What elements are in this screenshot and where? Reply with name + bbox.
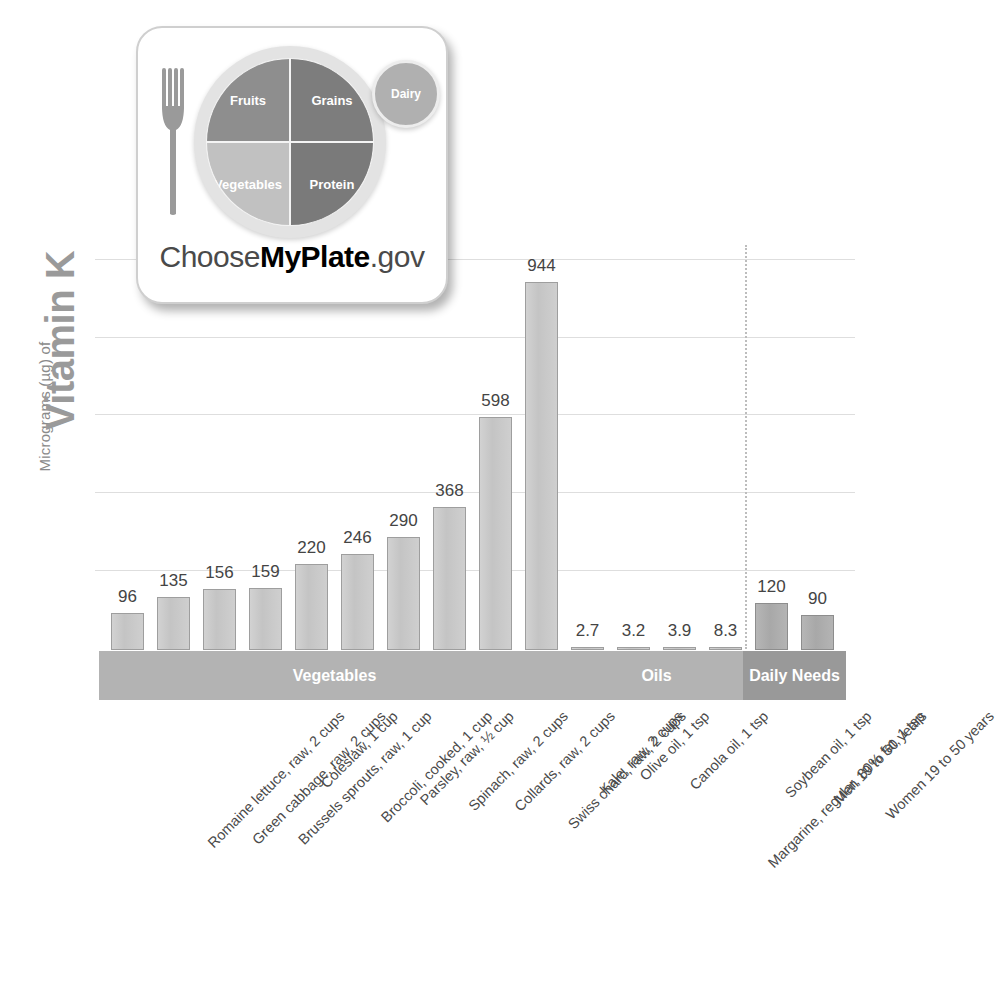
plate-segment-grains-label: Grains [311, 93, 352, 108]
bar[interactable] [203, 589, 236, 650]
plate-segment-dairy: Dairy [372, 60, 440, 128]
bar-value-label: 944 [512, 256, 572, 276]
wordmark-gov: .gov [370, 240, 425, 273]
bar[interactable] [571, 647, 604, 650]
wordmark-choose: Choose [159, 240, 259, 273]
plate-segment-vegetables-label: Vegetables [214, 177, 282, 192]
category-band-vegetables: Vegetables [99, 651, 570, 700]
bar-value-label: 598 [466, 391, 526, 411]
plate-inner: Fruits Grains Vegetables Protein [206, 58, 374, 226]
category-band-label: Oils [641, 667, 671, 684]
category-band-row: VegetablesOilsDaily Needs [95, 651, 855, 700]
bar-value-label: 90 [788, 589, 848, 609]
category-band-label: Vegetables [293, 667, 377, 684]
plate-segment-dairy-label: Dairy [391, 87, 421, 101]
gridline [95, 414, 855, 415]
category-band-daily-needs: Daily Needs [743, 651, 846, 700]
bar[interactable] [341, 554, 374, 650]
chart-title: Vitamin K [38, 241, 83, 441]
y-axis-title-block: Micrograms (µg) of Vitamin K [0, 210, 90, 640]
bar-value-label: 8.3 [696, 621, 756, 641]
x-tick-label: Parsley, raw, ½ cup [416, 708, 516, 808]
x-axis-tick-labels: Romaine lettuce, raw, 2 cupsGreen cabbag… [0, 700, 870, 1002]
plate-segment-protein-label: Protein [310, 177, 355, 192]
plate-segment-vegetables: Vegetables [206, 142, 290, 226]
category-band-label: Daily Needs [749, 667, 840, 684]
category-band-oils: Oils [559, 651, 754, 700]
bar[interactable] [663, 647, 696, 650]
bar[interactable] [295, 564, 328, 650]
gridline [95, 337, 855, 338]
bar[interactable] [433, 507, 466, 650]
wordmark-myplate: MyPlate [260, 240, 370, 273]
plate-segment-fruits: Fruits [206, 58, 290, 142]
bar[interactable] [801, 615, 834, 650]
bar[interactable] [479, 417, 512, 650]
bar[interactable] [525, 282, 558, 650]
plate-segment-grains: Grains [290, 58, 374, 142]
bar-value-label: 246 [328, 528, 388, 548]
bar-value-label: 368 [420, 481, 480, 501]
bar[interactable] [387, 537, 420, 650]
bar[interactable] [111, 613, 144, 650]
choosemyplate-wordmark: ChooseMyPlate.gov [138, 240, 446, 274]
plate-segment-protein: Protein [290, 142, 374, 226]
bar[interactable] [157, 597, 190, 650]
fork-icon [160, 68, 186, 216]
choosemyplate-logo: Fruits Grains Vegetables Protein Dairy C… [136, 26, 448, 304]
bar-value-label: 159 [236, 562, 296, 582]
bar[interactable] [617, 647, 650, 650]
plate-graphic: Fruits Grains Vegetables Protein [194, 46, 386, 238]
bar[interactable] [709, 647, 742, 650]
plate-segment-fruits-label: Fruits [230, 93, 266, 108]
plot-area: 961351561592202462903685989442.73.23.98.… [95, 245, 855, 650]
bar-value-label: 290 [374, 511, 434, 531]
bar[interactable] [755, 603, 788, 650]
bar[interactable] [249, 588, 282, 650]
